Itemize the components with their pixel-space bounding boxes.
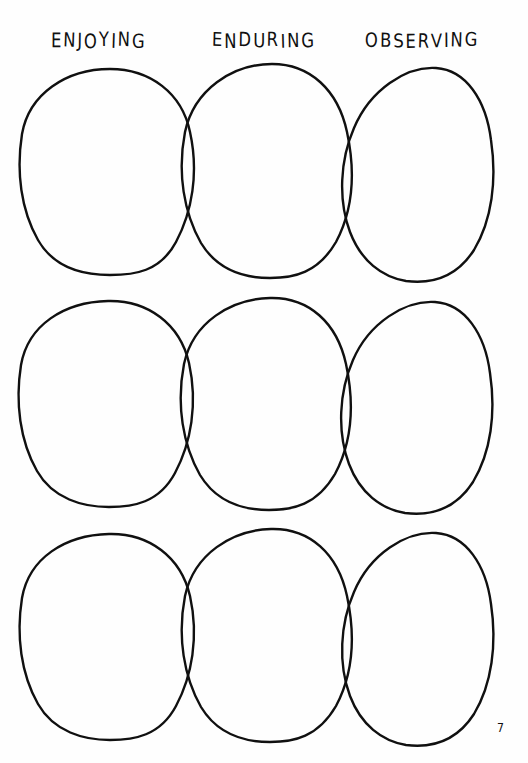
venn-oval-row1-observing[interactable]	[342, 68, 493, 282]
heading-enjoying-label: ENJOYING	[51, 29, 147, 51]
venn-oval-row2-enjoying[interactable]	[19, 301, 193, 507]
venn-oval-row3-enduring[interactable]	[182, 529, 352, 742]
page-number: 7	[497, 721, 504, 735]
heading-enduring-label: ENDURING	[212, 29, 316, 51]
heading-enjoying: ENJOYING	[51, 29, 147, 51]
heading-observing: OBSERVING	[365, 29, 480, 51]
venn-row-3	[0, 525, 528, 757]
venn-row-2	[0, 293, 528, 525]
venn-oval-row2-observing[interactable]	[341, 302, 492, 514]
venn-oval-row1-enduring[interactable]	[182, 64, 352, 278]
venn-oval-row1-enjoying[interactable]	[20, 69, 194, 275]
venn-oval-row2-enduring[interactable]	[181, 298, 351, 510]
headings-row: ENJOYING ENDURING OBSERVING	[0, 0, 528, 62]
worksheet-page: ENJOYING ENDURING OBSERVING 7	[0, 0, 528, 763]
venn-oval-row3-enjoying[interactable]	[20, 534, 194, 740]
venn-row-1	[0, 60, 528, 292]
venn-oval-row3-observing[interactable]	[342, 533, 493, 746]
heading-enduring: ENDURING	[212, 29, 316, 51]
heading-observing-label: OBSERVING	[365, 29, 480, 51]
